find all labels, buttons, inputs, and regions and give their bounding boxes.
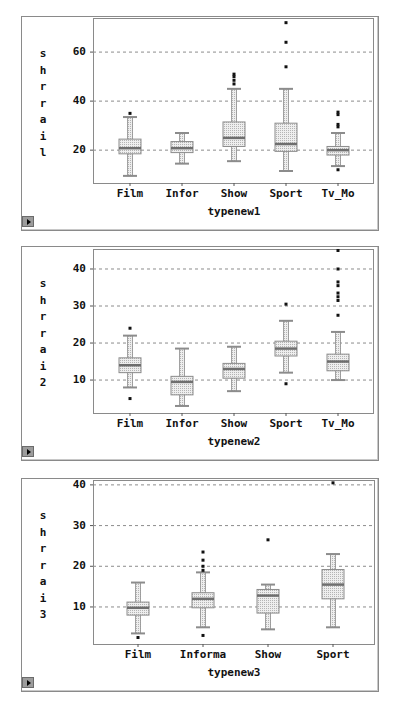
expand-arrow-button-3[interactable] (22, 677, 34, 688)
y-tick-label: 20 (56, 559, 86, 572)
outlier-point (202, 559, 205, 562)
outlier-point (267, 538, 270, 541)
box-informa (192, 551, 214, 647)
x-category-label: Informa (173, 648, 233, 661)
y-tick-label: 40 (56, 478, 86, 491)
outlier-point (202, 634, 205, 637)
outlier-point (332, 481, 335, 484)
x-category-label: Sport (303, 648, 363, 661)
iqr-box (192, 593, 214, 608)
x-category-label: Show (238, 648, 298, 661)
x-axis-title-3: typenew3 (174, 666, 294, 679)
x-category-label: Film (108, 648, 168, 661)
iqr-box (257, 589, 279, 613)
y-tick-label: 30 (56, 519, 86, 532)
outlier-point (202, 569, 205, 572)
y-tick-label: 10 (56, 600, 86, 613)
outlier-point (202, 565, 205, 568)
box-sport (322, 481, 344, 647)
box-show (257, 538, 279, 647)
box-film (127, 583, 149, 647)
outlier-point (137, 636, 140, 639)
outlier-point (202, 551, 205, 554)
